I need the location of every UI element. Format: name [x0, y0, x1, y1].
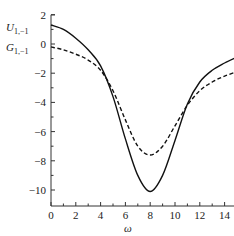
x-tick-label: 6 — [123, 209, 129, 221]
y-tick-label: −6 — [34, 126, 46, 138]
y-tick-label: 0 — [41, 38, 47, 50]
x-tick-label: 10 — [170, 209, 182, 221]
series-group — [51, 25, 234, 192]
labels-group: U1,−1 G1,−1 ω — [6, 21, 132, 234]
series-u-line — [51, 25, 234, 192]
y-tick-label: 2 — [41, 9, 47, 21]
y-tick-label: −4 — [34, 96, 46, 108]
series-g-line — [51, 47, 234, 155]
line-chart: 20−2−4−6−8−1002468101214 U1,−1 G1,−1 ω — [0, 0, 234, 236]
x-tick-label: 2 — [73, 209, 79, 221]
y-tick-label: −10 — [29, 184, 47, 196]
x-axis-title: ω — [124, 222, 132, 234]
y-tick-label: −2 — [34, 67, 46, 79]
x-tick-label: 12 — [194, 209, 205, 221]
series-label-g: G1,−1 — [6, 41, 28, 56]
axes: 20−2−4−6−8−1002468101214 — [29, 9, 234, 221]
series-label-u: U1,−1 — [6, 21, 28, 36]
x-tick-label: 14 — [219, 209, 231, 221]
x-tick-label: 8 — [147, 209, 153, 221]
x-tick-label: 0 — [48, 209, 54, 221]
x-tick-label: 4 — [98, 209, 104, 221]
y-tick-label: −8 — [34, 155, 46, 167]
